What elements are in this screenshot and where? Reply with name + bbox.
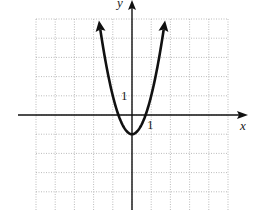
- x-axis-label: x: [240, 118, 246, 134]
- y-axis-label: y: [117, 0, 123, 11]
- y-tick-label: 1: [121, 88, 128, 104]
- graph: y x 1 1: [0, 0, 255, 210]
- coordinate-plane: [0, 0, 255, 210]
- x-tick-label: 1: [147, 117, 154, 133]
